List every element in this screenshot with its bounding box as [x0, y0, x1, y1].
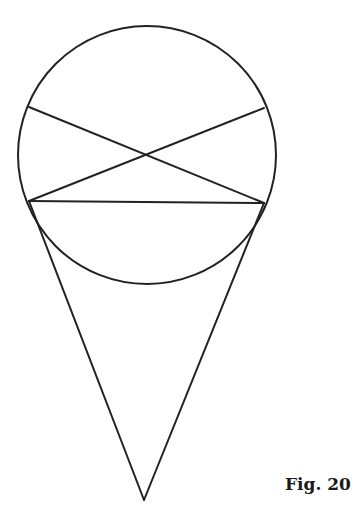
geometry-figure — [0, 0, 359, 527]
horizontal-chord — [29, 201, 264, 203]
cone-right-side — [144, 203, 264, 500]
cone-left-side — [29, 201, 144, 500]
figure-caption: Fig. 20 — [285, 474, 351, 494]
